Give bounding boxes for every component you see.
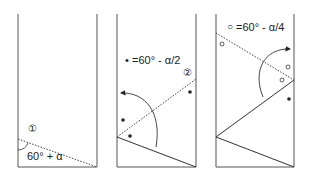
angle-label: 60° + α	[27, 151, 63, 162]
angle-dot	[287, 97, 291, 101]
angle-dot	[188, 90, 192, 94]
panel-1	[18, 14, 97, 167]
step-2-label: ②	[183, 68, 192, 78]
fold-arrow-icon	[121, 93, 157, 147]
fold-line-dotted	[216, 33, 294, 80]
angle-circle	[280, 78, 284, 82]
angle-dot	[128, 134, 132, 138]
legend-circle-symbol: ○	[227, 22, 233, 32]
strip-frame	[18, 14, 97, 167]
angle-circle	[286, 65, 290, 69]
fold-arrow-icon	[259, 49, 290, 97]
fold-line-dotted	[117, 79, 196, 137]
panel-3	[216, 14, 294, 167]
angle-dot	[121, 118, 125, 122]
strip-frame	[216, 14, 294, 167]
legend-circle-label: =60° - α/4	[236, 22, 284, 33]
fold-edge	[216, 80, 294, 137]
angle-arc	[18, 143, 28, 150]
legend-dot-label: =60° - α/2	[132, 55, 180, 66]
legend-dot-symbol: •	[125, 55, 129, 66]
fold-edge	[216, 137, 294, 167]
panel-2	[117, 14, 196, 167]
step-1-label: ①	[28, 124, 37, 134]
angle-circle	[220, 42, 224, 46]
